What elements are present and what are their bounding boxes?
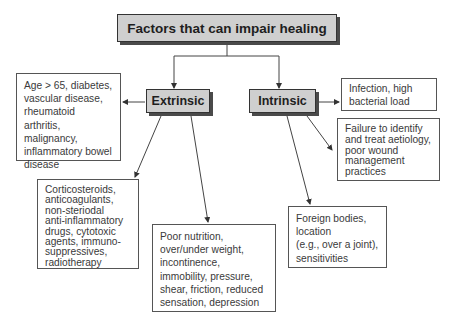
text-line: rheumatoid arthritis,	[24, 105, 114, 131]
text-line: vascular disease,	[24, 92, 114, 105]
factor-box-age-conditions: Age > 65, diabetes, vascular disease, rh…	[16, 73, 121, 161]
text-line: shear, friction, reduced	[160, 283, 269, 296]
text-line: incontinence,	[160, 256, 269, 269]
text-line: over/under weight,	[160, 243, 269, 256]
text-line: immobility, pressure,	[160, 270, 269, 283]
node-intrinsic-label: Intrinsic	[258, 94, 307, 108]
text-line: (e.g., over a joint),	[296, 238, 380, 251]
text-line: Infection, high	[349, 82, 430, 95]
text-line: radiotherapy	[45, 258, 132, 268]
text-line: sensitivities	[296, 252, 380, 265]
text-line: location	[296, 225, 380, 238]
factor-box-failure: Failure to identify and treat aetiology,…	[337, 118, 440, 181]
diagram-title-label: Factors that can impair healing	[127, 21, 327, 36]
diagram-title: Factors that can impair healing	[117, 14, 337, 42]
node-extrinsic-label: Extrinsic	[152, 94, 205, 108]
text-line: disease	[24, 158, 114, 171]
text-line: inflammatory bowel	[24, 145, 114, 158]
text-line: practices	[345, 167, 433, 178]
factor-box-foreign-bodies: Foreign bodies, location (e.g., over a j…	[288, 206, 387, 268]
text-line: bacterial load	[349, 95, 430, 108]
text-line: Age > 65, diabetes,	[24, 79, 114, 92]
factor-box-nutrition: Poor nutrition, over/under weight, incon…	[152, 224, 276, 312]
text-line: sensation, depression	[160, 296, 269, 309]
node-intrinsic: Intrinsic	[249, 89, 316, 113]
factor-box-infection: Infection, high bacterial load	[341, 78, 437, 111]
text-line: and treat aetiology,	[345, 135, 433, 146]
text-line: Foreign bodies,	[296, 212, 380, 225]
factor-box-drugs: Corticosteroids, anticoagulants, non-ste…	[37, 179, 139, 269]
node-extrinsic: Extrinsic	[146, 89, 210, 113]
text-line: malignancy,	[24, 132, 114, 145]
text-line: Poor nutrition,	[160, 230, 269, 243]
